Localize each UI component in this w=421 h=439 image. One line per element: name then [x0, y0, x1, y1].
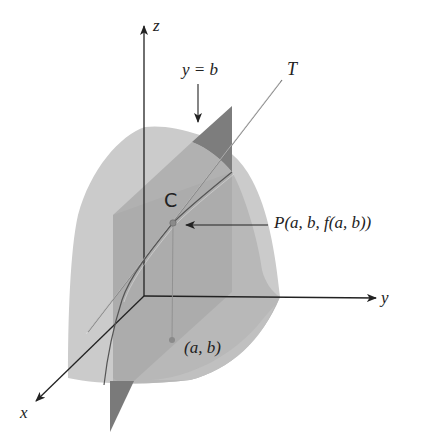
plane-y-equals-b-bottom: [110, 381, 134, 432]
z-axis-label: z: [153, 17, 160, 34]
plane-label: y = b: [182, 61, 218, 78]
point-a-b: [169, 337, 175, 343]
base-point-label: (a, b): [184, 339, 221, 356]
x-axis-label: x: [20, 404, 28, 421]
point-P-label: P(a, b, f(a, b)): [274, 214, 371, 231]
y-axis-label: y: [381, 289, 389, 306]
curve-label: C: [164, 191, 177, 210]
point-P: [170, 220, 176, 226]
tangent-label: T: [287, 60, 297, 78]
